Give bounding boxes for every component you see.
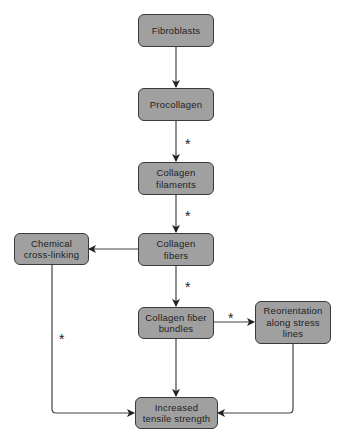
node-reorientation: Reorientation along stress lines (255, 301, 331, 344)
star-marker: * (59, 332, 64, 346)
node-collagen-fiber-bundles: Collagen fiber bundles (138, 307, 214, 339)
node-collagen-filaments: Collagen filaments (138, 162, 214, 195)
star-marker: * (185, 209, 190, 223)
star-marker: * (185, 137, 190, 151)
star-marker: * (185, 280, 190, 294)
node-increased-tensile-strength: Increased tensile strength (135, 397, 218, 429)
connector-layer (0, 0, 341, 437)
node-procollagen: Procollagen (138, 88, 214, 121)
star-marker: * (228, 311, 233, 325)
node-fibroblasts: Fibroblasts (138, 14, 214, 47)
node-collagen-fibers: Collagen fibers (138, 233, 214, 266)
node-chemical-cross-linking: Chemical cross-linking (14, 233, 89, 265)
edge-reorientation-strength (218, 344, 293, 413)
